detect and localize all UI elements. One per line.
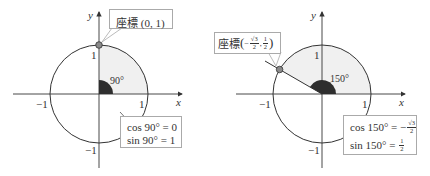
- x-fraction: √3 2: [250, 36, 259, 50]
- callout-prefix: 座標: [116, 17, 138, 29]
- x-denominator: 2: [253, 44, 256, 51]
- tick-x-pos: 1: [362, 99, 368, 110]
- paren-close: ): [269, 35, 273, 51]
- sin-denominator: 2: [400, 146, 403, 153]
- angle-label: 150°: [330, 74, 349, 84]
- cos-value: cos 90° = 0: [127, 121, 181, 134]
- callout-pointer: [102, 28, 122, 42]
- tick-y-neg: −1: [308, 145, 320, 156]
- cos-value: cos 150° = − √3 2: [350, 118, 416, 136]
- y-denominator: 2: [264, 44, 267, 51]
- callout-coords: (0, 1): [141, 17, 165, 29]
- x-axis-label: x: [399, 97, 404, 108]
- callout-prefix: 座標: [218, 35, 240, 51]
- separator: ,: [260, 39, 262, 48]
- sin-value: sin 150° = 1 2: [350, 136, 416, 154]
- tick-x-pos: 1: [139, 99, 145, 110]
- x-sign: −: [244, 39, 249, 48]
- tick-y-pos: 1: [314, 50, 320, 61]
- cos-prefix: cos 150° = −: [350, 121, 406, 133]
- point-marker: [96, 42, 103, 49]
- point-callout: 座標 (0, 1): [109, 9, 173, 29]
- point-callout: 座標 ( − √3 2 , 1 2 ): [214, 32, 281, 54]
- x-axis-label: x: [176, 97, 181, 108]
- tick-y-neg: −1: [85, 145, 97, 156]
- trig-values-box: cos 150° = − √3 2 sin 150° = 1 2: [343, 115, 417, 155]
- sin-value: sin 90° = 1: [127, 134, 181, 147]
- y-axis-label: y: [311, 10, 316, 21]
- tick-x-neg: −1: [259, 99, 271, 110]
- y-axis-label: y: [88, 10, 93, 21]
- trig-values-box: cos 90° = 0 sin 90° = 1: [120, 116, 182, 148]
- sin-fraction: 1 2: [399, 138, 404, 152]
- tick-x-neg: −1: [36, 99, 48, 110]
- cos-fraction: √3 2: [407, 120, 416, 134]
- point-marker: [276, 66, 283, 73]
- angle-label: 90°: [110, 76, 124, 86]
- tick-y-pos: 1: [91, 50, 97, 61]
- cos-denominator: 2: [410, 128, 413, 135]
- y-fraction: 1 2: [263, 36, 268, 50]
- sin-prefix: sin 150° =: [350, 139, 398, 151]
